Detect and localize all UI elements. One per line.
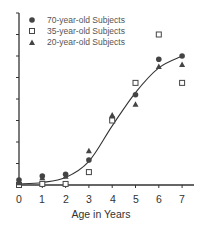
- x-tick-label: 1: [39, 193, 45, 205]
- x-tick-label: 6: [156, 193, 162, 205]
- data-point-20yo: [109, 112, 115, 118]
- fit-curve: [19, 56, 182, 184]
- x-tick-label: 2: [63, 193, 69, 205]
- data-point-70yo: [156, 56, 162, 62]
- legend-item-35: 35-year-old Subjects: [30, 26, 125, 36]
- legend-item-70: 70-year-old Subjects: [29, 15, 125, 25]
- data-point-35yo: [110, 118, 115, 123]
- data-point-35yo: [86, 170, 91, 175]
- filled-circle-marker-icon: [29, 17, 35, 23]
- sigmoid-fit-line: [19, 56, 182, 184]
- filled-triangle-marker-icon: [29, 40, 35, 46]
- data-point-35yo: [180, 80, 185, 85]
- x-tick-label: 5: [133, 193, 139, 205]
- data-point-20yo: [86, 148, 92, 154]
- legend-label: 35-year-old Subjects: [47, 26, 125, 36]
- x-axis-title: Age in Years: [72, 208, 131, 220]
- x-tick-label: 4: [110, 193, 116, 205]
- legend-label: 70-year-old Subjects: [47, 15, 125, 25]
- open-square-marker-icon: [30, 29, 35, 34]
- legend-label: 20-year-old Subjects: [47, 37, 125, 47]
- data-points: [16, 32, 185, 188]
- x-tick-labels: 0 1 2 3 4 5 6 7: [16, 193, 185, 205]
- data-point-70yo: [133, 92, 139, 98]
- data-point-35yo: [156, 32, 161, 37]
- data-point-35yo: [63, 181, 68, 186]
- data-point-35yo: [40, 181, 45, 186]
- legend: 70-year-old Subjects 35-year-old Subject…: [29, 15, 125, 47]
- scatter-chart: 70-year-old Subjects 35-year-old Subject…: [0, 0, 203, 232]
- data-point-70yo: [86, 157, 92, 163]
- legend-item-20: 20-year-old Subjects: [29, 37, 125, 47]
- data-point-70yo: [179, 53, 185, 59]
- x-tick-label: 3: [86, 193, 92, 205]
- data-point-35yo: [133, 80, 138, 85]
- data-point-20yo: [179, 61, 185, 67]
- x-tick-label: 7: [179, 193, 185, 205]
- data-point-20yo: [133, 101, 139, 107]
- x-tick-label: 0: [16, 193, 22, 205]
